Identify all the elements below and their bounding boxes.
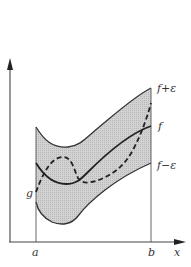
- label-x-axis: x: [174, 246, 181, 259]
- label-g: g: [26, 187, 33, 200]
- y-axis-arrow-icon: [7, 58, 13, 70]
- epsilon-tube-diagram: f+ε f f−ε g a b x: [0, 0, 191, 267]
- label-f: f: [157, 120, 164, 133]
- epsilon-band: [36, 88, 151, 224]
- x-axis-arrow-icon: [174, 239, 186, 245]
- label-b: b: [148, 246, 155, 259]
- label-a: a: [32, 246, 39, 259]
- label-upper-band: f+ε: [156, 82, 176, 95]
- label-lower-band: f−ε: [156, 159, 176, 172]
